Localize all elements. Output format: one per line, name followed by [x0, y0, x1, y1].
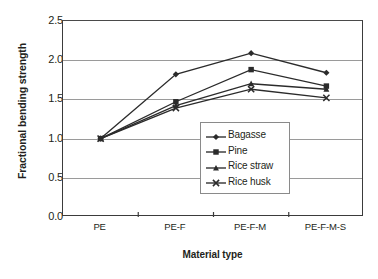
y-axis-tick-label: 0.0 [23, 210, 63, 222]
data-point-marker-diamond [213, 134, 219, 140]
data-point-marker-square [248, 67, 253, 72]
x-axis-tick-label: PE-F [164, 221, 185, 232]
legend-item: Rice husk [205, 174, 284, 190]
legend-item: Rice straw [205, 158, 284, 174]
y-axis-tick-label: 2.5 [23, 14, 63, 26]
legend-marker-square-icon [205, 144, 227, 156]
x-axis-tick-label: PE-F-M-S [305, 221, 346, 232]
y-axis-tick-label: 1.0 [23, 132, 63, 144]
legend-label: Bagasse [227, 129, 266, 140]
x-axis-tick-label: PE-F-M [234, 221, 266, 232]
x-axis-tick-label: PE [93, 221, 105, 232]
data-point-marker-square [213, 150, 218, 155]
legend-marker-triangle-icon [205, 160, 227, 172]
x-axis-title: Material type [62, 249, 363, 260]
y-axis-tick-label: 1.5 [23, 92, 63, 104]
legend-marker-x-icon [205, 175, 227, 187]
data-point-marker-diamond [323, 70, 329, 76]
legend-label: Rice husk [227, 176, 271, 187]
legend-item: Pine [205, 143, 284, 159]
data-point-marker-diamond [248, 50, 254, 56]
legend: BagassePineRice strawRice husk [200, 122, 290, 194]
y-axis-tick-label: 2.0 [23, 53, 63, 65]
legend-item: Bagasse [205, 127, 284, 143]
legend-label: Pine [227, 145, 247, 156]
line-chart: Fractional bending strength Material typ… [0, 0, 378, 279]
y-axis-tick-label: 0.5 [23, 171, 63, 183]
legend-marker-diamond-icon [205, 129, 227, 141]
legend-label: Rice straw [227, 160, 273, 171]
